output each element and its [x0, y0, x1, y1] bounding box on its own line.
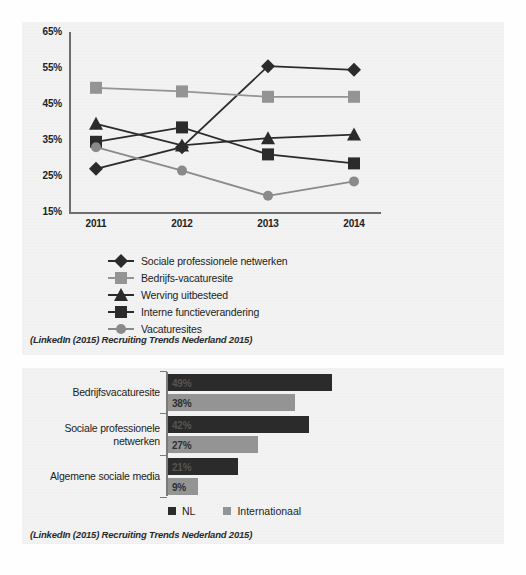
line-chart-source-caption: (LinkedIn (2015) Recruiting Trends Neder… — [30, 334, 252, 345]
data-point-marker — [262, 148, 274, 160]
line-chart-legend: Sociale professionele netwerkenBedrijfs-… — [108, 252, 368, 337]
legend-item-label: Interne functieverandering — [141, 306, 259, 318]
legend-item: NL — [168, 505, 195, 517]
legend-line-swatch — [108, 260, 134, 262]
legend-marker-icon — [113, 304, 129, 320]
legend-marker-icon — [113, 270, 129, 286]
line-plot-area — [70, 32, 380, 212]
bar-category-text: Bedrijfsvacaturesite — [40, 386, 160, 399]
data-point-marker — [176, 121, 188, 133]
x-tick-label: 2011 — [73, 218, 119, 229]
data-point-marker — [114, 254, 128, 268]
bar-value-label: 21% — [172, 461, 191, 472]
legend-marker-icon — [113, 253, 129, 269]
data-point-marker — [116, 324, 126, 334]
y-tick-label: 45% — [28, 98, 62, 109]
bar: 42% — [168, 416, 309, 433]
bar-value-label: 49% — [172, 377, 191, 388]
line-series — [89, 59, 361, 176]
y-tick-label: 65% — [28, 26, 62, 37]
bar-value-label: 38% — [172, 397, 191, 408]
bar: 38% — [168, 394, 295, 411]
bar-chart-source-caption: (LinkedIn (2015) Recruiting Trends Neder… — [30, 529, 252, 540]
bar-category-label: Sociale professionele netwerken — [38, 416, 160, 453]
axis-tick — [160, 413, 167, 414]
y-tick-label: 55% — [28, 62, 62, 73]
line-series — [89, 117, 361, 152]
legend-item-label: Bedrijfs-vacaturesite — [141, 272, 233, 284]
data-point-marker — [177, 166, 187, 176]
bar-category-label: Bedrijfsvacaturesite — [38, 374, 160, 411]
data-point-marker — [349, 176, 359, 186]
axis-tick — [160, 497, 167, 498]
legend-item: Bedrijfs-vacaturesite — [108, 269, 368, 286]
line-series — [90, 121, 360, 169]
legend-item-label: Sociale professionele netwerken — [141, 255, 288, 267]
legend-item: Internationaal — [223, 505, 301, 517]
legend-line-swatch — [108, 328, 134, 330]
line-chart: 65%55%45%35%25%15% 2011201220132014 — [22, 22, 504, 232]
axis-tick — [160, 371, 167, 372]
data-point-marker — [348, 91, 360, 103]
legend-item: Werving uitbesteed — [108, 286, 368, 303]
y-tick-label: 25% — [28, 170, 62, 181]
x-tick-label: 2014 — [331, 218, 377, 229]
legend-color-swatch — [168, 507, 176, 515]
legend-line-swatch — [108, 311, 134, 313]
x-axis-line — [69, 212, 381, 214]
bar: 27% — [168, 436, 258, 453]
bar: 49% — [168, 374, 332, 391]
y-tick-label: 15% — [28, 206, 62, 217]
scanned-figure-page: 65%55%45%35%25%15% 2011201220132014 Soci… — [0, 0, 526, 575]
series-line — [96, 147, 354, 196]
y-tick-label: 35% — [28, 134, 62, 145]
line-series — [91, 142, 359, 201]
data-point-marker — [347, 63, 361, 77]
series-line — [96, 88, 354, 97]
bar: 21% — [168, 458, 238, 475]
legend-line-swatch — [108, 294, 134, 296]
series-line — [96, 66, 354, 169]
legend-item: Sociale professionele netwerken — [108, 252, 368, 269]
legend-item-label: NL — [182, 505, 195, 517]
bar-chart: BedrijfsvacaturesiteSociale professionel… — [22, 368, 504, 518]
bar-chart-legend: NLInternationaal — [168, 505, 301, 517]
data-point-marker — [115, 306, 127, 318]
data-point-marker — [262, 91, 274, 103]
axis-tick — [160, 455, 167, 456]
data-point-marker — [176, 85, 188, 97]
line-series — [90, 82, 360, 103]
bar-category-text: Sociale professionele netwerken — [40, 422, 160, 448]
legend-line-swatch — [108, 277, 134, 279]
bar-category-text: Algemene sociale media — [40, 470, 160, 483]
data-point-marker — [348, 157, 360, 169]
legend-item-label: Vacaturesites — [141, 323, 202, 335]
data-point-marker — [89, 117, 103, 130]
legend-item-label: Internationaal — [237, 505, 301, 517]
bar-category-label: Algemene sociale media — [38, 458, 160, 495]
legend-item: Interne functieverandering — [108, 303, 368, 320]
data-point-marker — [114, 288, 128, 301]
bar-value-label: 9% — [172, 481, 186, 492]
legend-item-label: Werving uitbesteed — [141, 289, 228, 301]
x-tick-label: 2012 — [159, 218, 205, 229]
bar: 9% — [168, 478, 198, 495]
data-point-marker — [263, 191, 273, 201]
data-point-marker — [115, 272, 127, 284]
bar-value-label: 27% — [172, 439, 191, 450]
data-point-marker — [89, 162, 103, 176]
data-point-marker — [90, 82, 102, 94]
x-tick-label: 2013 — [245, 218, 291, 229]
legend-marker-icon — [113, 287, 129, 303]
legend-color-swatch — [223, 507, 231, 515]
bar-value-label: 42% — [172, 419, 191, 430]
data-point-marker — [91, 142, 101, 152]
